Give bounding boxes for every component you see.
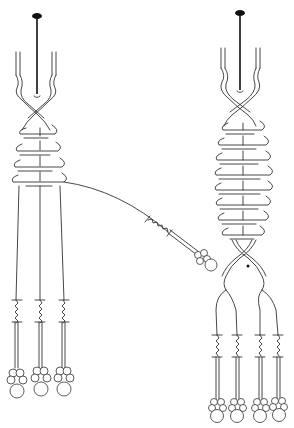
tassel-right-1	[209, 335, 227, 423]
left-braid-figure	[7, 13, 217, 398]
bead-icon	[57, 382, 71, 396]
tassel-left-2	[31, 300, 51, 396]
pin-hook	[34, 96, 40, 98]
wrap-rows	[215, 121, 272, 239]
bead-icon	[205, 259, 217, 271]
tassel-right-2	[229, 335, 247, 423]
tassel-right-3	[252, 335, 270, 423]
tassel-left-1	[7, 300, 27, 398]
tassel-right-4	[270, 335, 288, 422]
pulled-strand	[64, 182, 217, 271]
bead-icon	[211, 410, 224, 423]
bead-icon	[273, 409, 286, 422]
braid-illustration	[0, 0, 294, 428]
strands	[16, 186, 64, 300]
wrap-rows	[12, 125, 66, 186]
bead-icon	[34, 382, 48, 396]
marker-dot	[247, 265, 250, 268]
pin-hook	[237, 91, 243, 93]
bead-icon	[231, 410, 244, 423]
bead-icon	[254, 410, 267, 423]
cord-ends	[16, 52, 56, 75]
right-braid-figure	[209, 10, 288, 423]
tassel-left-3	[54, 300, 74, 396]
bead-icon	[10, 384, 24, 398]
